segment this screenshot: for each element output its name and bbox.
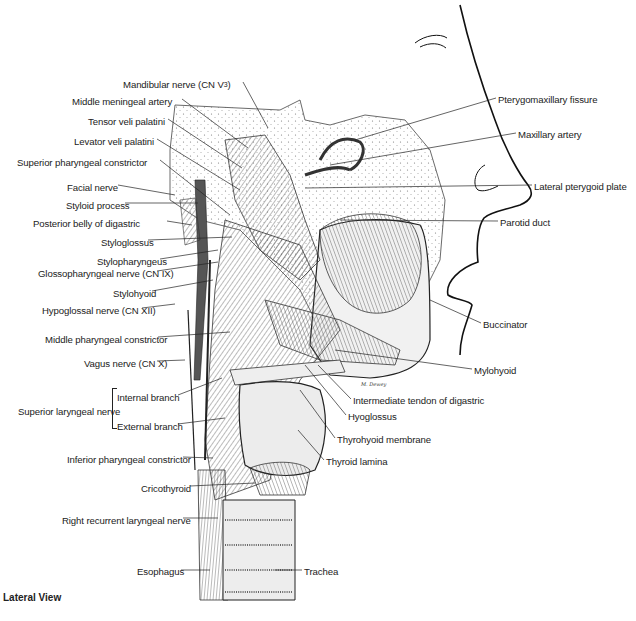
label-inf-constrictor: Inferior pharyngeal constrictor (67, 454, 191, 465)
illustrator-signature: M. Dewey (361, 381, 386, 387)
label-text: Right recurrent laryngeal nerve (62, 515, 191, 526)
label-pterygomaxillary: Pterygomaxillary fissure (498, 94, 597, 105)
label-external-branch: External branch (117, 421, 183, 432)
label-suffix: ) (228, 79, 231, 90)
label-text: Esophagus (137, 566, 184, 577)
label-glossopharyngeal: Glossopharyngeal nerve (CN IX) (38, 268, 174, 279)
label-text: Maxillary artery (518, 129, 581, 140)
cricothyroid-muscle (250, 462, 310, 495)
trachea (223, 500, 295, 600)
label-stylopharyngeus: Stylopharyngeus (97, 256, 167, 267)
label-text: Buccinator (483, 319, 527, 330)
label-text: Thyrohyoid membrane (337, 434, 431, 445)
label-buccinator: Buccinator (483, 319, 527, 330)
label-text: Hypoglossal nerve (CN XII) (42, 305, 156, 316)
label-mandibular: Mandibular nerve (CN V3) (123, 79, 231, 90)
label-text: Posterior belly of digastric (33, 218, 140, 229)
label-facial: Facial nerve (67, 182, 118, 193)
label-text: Mandibular nerve (CN V (123, 79, 224, 90)
label-text: Hyoglossus (348, 411, 397, 422)
label-mylohyoid: Mylohyoid (474, 365, 516, 376)
label-tensor: Tensor veli palatini (88, 116, 165, 127)
label-stylohyoid: Stylohyoid (113, 288, 156, 299)
label-text: Glossopharyngeal nerve (CN IX) (38, 268, 174, 279)
label-text: Superior laryngeal nerve (18, 406, 120, 417)
label-text: Stylohyoid (113, 288, 156, 299)
label-text: Inferior pharyngeal constrictor (67, 454, 191, 465)
label-recurrent-laryngeal: Right recurrent laryngeal nerve (62, 515, 191, 526)
label-thyroid-lamina: Thyroid lamina (326, 456, 388, 467)
label-hypoglossal: Hypoglossal nerve (CN XII) (42, 305, 156, 316)
label-int-tendon-digastric: Intermediate tendon of digastric (353, 395, 484, 406)
label-text: Thyroid lamina (326, 456, 388, 467)
label-vagus: Vagus nerve (CN X) (84, 358, 167, 369)
label-thyrohyoid-membrane: Thyrohyoid membrane (337, 434, 431, 445)
label-text: Tensor veli palatini (88, 116, 165, 127)
figure-caption: Lateral View (3, 592, 61, 603)
label-trachea: Trachea (304, 566, 338, 577)
label-text: Vagus nerve (CN X) (84, 358, 167, 369)
label-esophagus: Esophagus (137, 566, 184, 577)
label-sup-laryngeal: Superior laryngeal nerve (18, 406, 120, 417)
label-cricothyroid: Cricothyroid (141, 483, 191, 494)
thyroid-cartilage (239, 382, 325, 476)
label-parotid-duct: Parotid duct (500, 217, 550, 228)
label-hyoglossus: Hyoglossus (348, 411, 397, 422)
label-levator: Levator veli palatini (74, 136, 154, 147)
label-text: Cricothyroid (141, 483, 191, 494)
label-maxillary-artery: Maxillary artery (518, 129, 581, 140)
label-text: Styloid process (66, 200, 130, 211)
label-text: Levator veli palatini (74, 136, 154, 147)
label-styloid: Styloid process (66, 200, 130, 211)
label-text: Internal branch (117, 392, 180, 403)
label-post-digastric: Posterior belly of digastric (33, 218, 140, 229)
label-text: Parotid duct (500, 217, 550, 228)
label-text: Pterygomaxillary fissure (498, 94, 597, 105)
label-lateral-pterygoid: Lateral pterygoid plate (534, 181, 627, 192)
label-text: External branch (117, 421, 183, 432)
label-text: Mylohyoid (474, 365, 516, 376)
label-text: Styloglossus (101, 237, 154, 248)
label-text: Trachea (304, 566, 338, 577)
label-styloglossus: Styloglossus (101, 237, 154, 248)
label-text: Middle pharyngeal constrictor (45, 334, 167, 345)
label-text: Facial nerve (67, 182, 118, 193)
label-sup-constrictor: Superior pharyngeal constrictor (17, 157, 147, 168)
label-text: Intermediate tendon of digastric (353, 395, 484, 406)
label-text: Lateral pterygoid plate (534, 181, 627, 192)
label-text: Superior pharyngeal constrictor (17, 157, 147, 168)
label-mid-constrictor: Middle pharyngeal constrictor (45, 334, 167, 345)
label-middle-meningeal: Middle meningeal artery (72, 96, 172, 107)
label-text: Middle meningeal artery (72, 96, 172, 107)
label-internal-branch: Internal branch (117, 392, 180, 403)
label-text: Stylopharyngeus (97, 256, 167, 267)
